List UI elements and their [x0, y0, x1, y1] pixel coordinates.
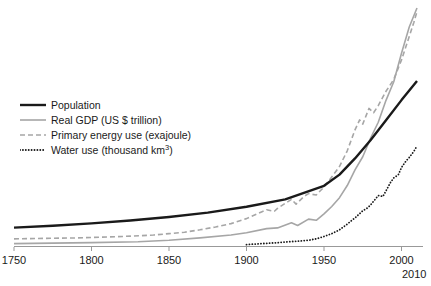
- series-line-water-use-thousand-km3: [247, 146, 418, 245]
- legend-item-label: Real GDP (US $ trillion): [51, 114, 162, 126]
- legend-label-superscript: 3: [165, 143, 169, 152]
- legend-item-label: Water use (thousand km3): [51, 144, 173, 156]
- x-axis-tick-label: 1750: [2, 254, 26, 266]
- legend-line-swatch: [20, 99, 46, 111]
- legend-item[interactable]: Water use (thousand km3): [20, 143, 230, 157]
- legend-item[interactable]: Real GDP (US $ trillion): [20, 113, 230, 127]
- chart-figure: PopulationReal GDP (US $ trillion)Primar…: [0, 0, 431, 286]
- chart-legend: PopulationReal GDP (US $ trillion)Primar…: [20, 98, 230, 158]
- legend-item[interactable]: Primary energy use (exajoule): [20, 128, 230, 142]
- legend-item-label: Population: [51, 99, 101, 111]
- legend-line-swatch: [20, 114, 46, 126]
- x-axis-tick-label: 1800: [79, 254, 103, 266]
- x-axis-tick-label: 1850: [157, 254, 181, 266]
- x-axis-tick-label: 2000: [389, 254, 413, 266]
- x-axis-end-year-label: 2010: [402, 268, 426, 280]
- legend-item[interactable]: Population: [20, 98, 230, 112]
- x-axis-tick-label: 1950: [312, 254, 336, 266]
- legend-line-swatch: [20, 129, 46, 141]
- legend-item-label: Primary energy use (exajoule): [51, 129, 191, 141]
- x-axis-tick-label: 1900: [234, 254, 258, 266]
- legend-line-swatch: [20, 144, 46, 156]
